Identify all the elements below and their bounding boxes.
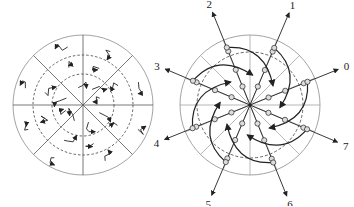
- random-vector: [55, 44, 67, 50]
- random-vector: [99, 113, 110, 122]
- right-circle-diagram: 01234567: [154, 0, 350, 206]
- random-vector: [109, 122, 117, 126]
- node-circle: [304, 127, 309, 132]
- direction-label-1: 1: [290, 0, 296, 11]
- random-vector: [138, 126, 146, 134]
- grid-spoke: [201, 56, 250, 105]
- direction-label-6: 6: [287, 198, 293, 206]
- random-vector: [50, 158, 54, 165]
- random-vector: [41, 116, 48, 122]
- grid-spoke: [201, 105, 250, 154]
- grid-spoke: [250, 105, 299, 154]
- random-vector: [20, 81, 25, 88]
- direction-label-2: 2: [206, 0, 212, 10]
- node-circle: [240, 84, 245, 89]
- left-circle-diagram: [13, 35, 153, 175]
- node-circle: [224, 45, 229, 50]
- sector-line: [34, 105, 83, 154]
- sector-line: [34, 56, 83, 105]
- node-circle: [255, 84, 260, 89]
- node-circle: [266, 110, 271, 115]
- direction-label-0: 0: [344, 60, 350, 72]
- node-circle: [229, 110, 234, 115]
- spiral-vector: [274, 48, 290, 108]
- random-vector: [110, 83, 118, 90]
- random-vector: [64, 136, 77, 142]
- sector-line: [83, 105, 132, 154]
- node-circle: [223, 159, 228, 164]
- node-circle: [266, 95, 271, 100]
- node-circle: [272, 45, 277, 50]
- node-circle: [229, 95, 234, 100]
- random-vector: [106, 50, 110, 60]
- random-vector: [86, 144, 94, 147]
- node-circle: [305, 79, 310, 84]
- random-vector: [69, 61, 72, 67]
- random-vector: [87, 122, 96, 132]
- spiral-vector: [210, 102, 226, 162]
- direction-label-4: 4: [154, 137, 160, 149]
- center-point: [249, 104, 252, 107]
- direction-label-7: 7: [343, 140, 349, 152]
- node-circle: [271, 160, 276, 165]
- random-vector: [45, 87, 56, 96]
- node-circle: [240, 121, 245, 126]
- random-vector: [92, 66, 99, 70]
- random-vector: [61, 109, 66, 114]
- grid-spoke: [250, 56, 299, 105]
- node-circle: [190, 78, 195, 83]
- random-vector: [78, 82, 86, 88]
- node-circle: [282, 117, 287, 122]
- random-vector: [93, 97, 100, 102]
- spiral-vector: [193, 65, 253, 81]
- spiral-vector: [247, 129, 307, 145]
- random-vector: [25, 123, 29, 130]
- node-circle: [190, 126, 195, 131]
- direction-label-3: 3: [154, 60, 160, 72]
- diagram-canvas: 01234567: [0, 0, 354, 206]
- random-vector: [138, 82, 142, 94]
- sector-line: [83, 56, 132, 105]
- node-circle: [255, 121, 260, 126]
- direction-label-5: 5: [205, 198, 211, 207]
- random-vector: [105, 150, 111, 161]
